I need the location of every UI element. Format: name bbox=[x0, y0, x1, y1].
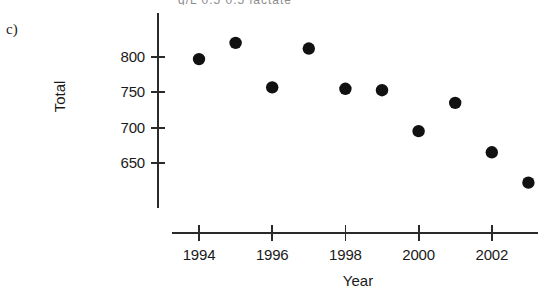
y-tick-label: 750 bbox=[101, 83, 145, 100]
y-tick-label: 800 bbox=[101, 48, 145, 65]
x-tick-label: 1998 bbox=[317, 246, 373, 263]
data-points-group bbox=[193, 37, 535, 189]
data-point bbox=[412, 125, 424, 137]
tick-marks-group bbox=[151, 57, 492, 241]
data-point bbox=[449, 97, 461, 109]
y-tick-label: 650 bbox=[101, 154, 145, 171]
data-point bbox=[376, 84, 388, 96]
data-point bbox=[522, 176, 534, 188]
x-tick-label: 1994 bbox=[171, 246, 227, 263]
x-tick-label: 1996 bbox=[244, 246, 300, 263]
figure-panel-c: g/L 0.5 0.5 lactate c) 650700750800 1994… bbox=[0, 0, 538, 297]
data-point bbox=[486, 146, 498, 158]
axes-group bbox=[158, 13, 538, 233]
data-point bbox=[229, 37, 241, 49]
data-point bbox=[303, 42, 315, 54]
x-tick-label: 2000 bbox=[391, 246, 447, 263]
data-point bbox=[193, 53, 205, 65]
data-point bbox=[339, 83, 351, 95]
x-tick-label: 2002 bbox=[464, 246, 520, 263]
y-tick-label: 700 bbox=[101, 119, 145, 136]
y-axis-title: Total bbox=[51, 81, 68, 113]
data-point bbox=[266, 81, 278, 93]
x-axis-title: Year bbox=[330, 272, 386, 289]
